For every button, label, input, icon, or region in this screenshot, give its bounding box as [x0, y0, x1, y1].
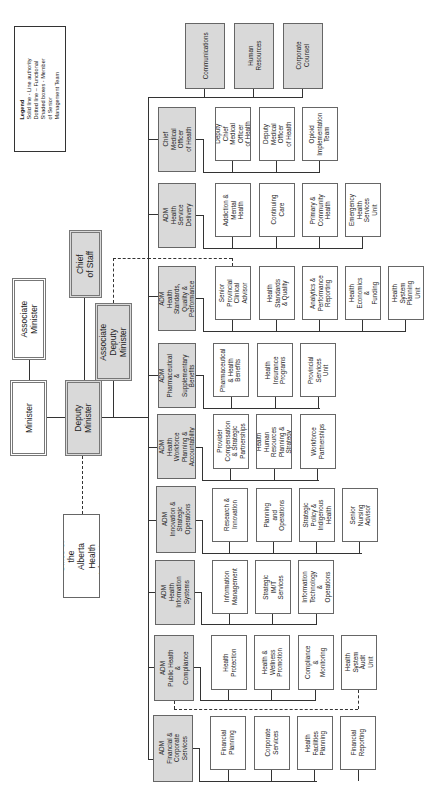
division-head-financial-corporate[interactable]: ADM Financial & Corporate Services: [153, 715, 193, 782]
unit-opioid-team[interactable]: Opioid Implementation Team: [302, 107, 338, 161]
division-head-health-service-delivery[interactable]: ADM Health Service Delivery: [158, 183, 196, 248]
chief-of-staff-box[interactable]: Chief of Staff: [69, 230, 102, 298]
unit-connector: [228, 690, 229, 700]
unit-compliance-monitoring[interactable]: Compliance & Monitoring: [298, 635, 334, 690]
division-head-health-standards[interactable]: ADM Health Standards, Quality & Performa…: [158, 266, 196, 331]
division-head-health-workforce[interactable]: ADM Health Workforce Planning & Accounta…: [157, 414, 196, 479]
unit-addiction-mental-health[interactable]: Addiction & Mental Health: [215, 183, 251, 237]
unit-connector: [276, 237, 277, 248]
unit-deputy-chief-moh[interactable]: Deputy Chief Medical Officer of Health: [215, 107, 251, 161]
unit-connector: [315, 690, 316, 700]
communications-box[interactable]: Communications: [185, 23, 225, 89]
corporate-counsel-box[interactable]: Corporate Counsel: [283, 23, 323, 89]
unit-label: Health System Audit Unit: [344, 646, 374, 680]
division-head-chief-medical-officer[interactable]: Chief Medical Officer of Health: [158, 107, 196, 172]
div6-drop: [201, 592, 202, 624]
unit-connector: [232, 161, 233, 172]
unit-label: Planning and Operations: [263, 498, 286, 532]
unit-health-protection[interactable]: Health Protection: [211, 635, 247, 690]
division-head-health-information-systems[interactable]: ADM Health Information Systems: [155, 560, 195, 625]
dashed-audit-drop: [358, 690, 359, 709]
unit-connector: [276, 161, 277, 172]
connector-div1: [148, 214, 158, 215]
health-advocates-box[interactable]: Office of the Alberta Health Advocates: [63, 514, 100, 598]
human-resources-box[interactable]: Human Resources: [234, 23, 274, 89]
div4-drop: [202, 447, 203, 480]
unit-information-technology-operations[interactable]: Information Technology & Operations: [298, 560, 334, 614]
backbone-line: [148, 97, 149, 759]
unit-strategic-imt-services[interactable]: Strategic IM/T Services: [255, 560, 291, 614]
unit-label: Research & Innovation: [222, 499, 237, 532]
unit-provincial-services[interactable]: Provincial Services Unit: [300, 343, 336, 397]
div5-bar: [202, 553, 362, 554]
communications-label: Communications: [201, 33, 209, 80]
unit-analytics-performance-reporting[interactable]: Analytics & Performance Reporting: [302, 266, 338, 320]
unit-label: Provincial Services Unit: [307, 353, 330, 387]
associate-minister-box[interactable]: Associate Minister: [12, 278, 46, 360]
unit-label: Pharmaceutical & Health Benefits: [220, 348, 243, 391]
division-head-label: ADM Innovation & Strategic Operations: [161, 501, 191, 539]
division-head-public-health[interactable]: ADM Public Health & Compliance: [154, 635, 194, 701]
unit-information-management[interactable]: Information Management: [212, 560, 248, 614]
unit-health-wellness-promotion[interactable]: Health & Wellness Promotion: [254, 635, 290, 690]
unit-planning-operations[interactable]: Planning and Operations: [256, 488, 292, 542]
unit-health-system-planning[interactable]: Health System Planning Unit: [388, 266, 424, 320]
unit-label: Deputy Medical Officer of Health: [262, 117, 292, 151]
div6-bar: [201, 624, 317, 625]
unit-continuing-care[interactable]: Continuing Care: [259, 183, 295, 237]
unit-pharmaceutical-health-benefits[interactable]: Pharmaceutical & Health Benefits: [213, 343, 249, 397]
associate-deputy-minister-box[interactable]: Associate Deputy Minister: [95, 303, 132, 381]
unit-financial-reporting[interactable]: Financial Reporting: [340, 716, 376, 770]
unit-label: Strategic Policy & Indigenous Health: [302, 500, 332, 531]
unit-health-facilities-planning[interactable]: Health Facilities Planning: [297, 716, 333, 770]
unit-health-standards-quality[interactable]: Health Standards & Quality: [259, 266, 295, 320]
division-head-innovation[interactable]: ADM Innovation & Strategic Operations: [156, 486, 196, 553]
unit-health-economics-funding[interactable]: Health Economics & Funding: [345, 266, 381, 320]
unit-senior-nursing-advisor[interactable]: Senior Nursing Advisor: [342, 488, 378, 542]
unit-corporate-services[interactable]: Corporate Services: [254, 716, 290, 770]
connector-minister-deputy: [47, 417, 65, 418]
unit-label: Analytics & Performance Reporting: [309, 275, 332, 311]
unit-label: Senior Nursing Advisor: [349, 504, 372, 526]
unit-workforce-partnerships[interactable]: Workforce Partnerships: [300, 414, 336, 469]
unit-health-human-resources[interactable]: Health Human Resources Planning & Strate…: [256, 414, 292, 469]
unit-deputy-moh[interactable]: Deputy Medical Officer of Health: [259, 107, 295, 161]
unit-connector: [359, 542, 360, 553]
unit-provider-compensation[interactable]: Provider Compensation & Strategic Partne…: [213, 414, 249, 469]
div0-drop: [203, 139, 204, 172]
unit-connector: [316, 614, 317, 624]
connector-div3: [148, 375, 158, 376]
unit-health-system-audit[interactable]: Health System Audit Unit: [341, 635, 377, 690]
associate-deputy-minister-label: Associate Deputy Minister: [98, 324, 129, 361]
unit-emergency-health-services[interactable]: Emergency Health Services Unit: [345, 183, 381, 237]
unit-label: Financial Planning: [220, 730, 235, 755]
unit-health-insurance-programs[interactable]: Health Insurance Programs: [257, 343, 293, 397]
division-head-label: ADM Pharmaceutical & Supplementary Benef…: [158, 354, 196, 397]
unit-primary-community-health[interactable]: Primary & Community Health: [302, 183, 338, 237]
legend-shaded-boxes: Shaded boxes - Member of Senior Manageme…: [40, 58, 61, 119]
health-advocates-label: Office of the Alberta Health Advocates: [63, 536, 100, 576]
unit-connector: [273, 542, 274, 553]
unit-connector: [318, 397, 319, 408]
unit-label: Senior Provincial Clinical Advisor: [218, 279, 248, 306]
unit-connector: [232, 237, 233, 248]
minister-box[interactable]: Minister: [10, 380, 47, 456]
division-head-label: ADM Health Service Delivery: [162, 198, 192, 234]
minister-label: Minister: [23, 403, 33, 433]
unit-label: Health Facilities Planning: [304, 726, 327, 760]
dashed-deputy-health-advocates: [82, 456, 83, 514]
div7-drop: [200, 667, 201, 700]
division-head-pharmaceutical[interactable]: ADM Pharmaceutical & Supplementary Benef…: [158, 343, 196, 408]
unit-strategic-policy-indigenous[interactable]: Strategic Policy & Indigenous Health: [299, 488, 335, 542]
unit-financial-planning[interactable]: Financial Planning: [210, 716, 246, 770]
division-head-label: ADM Health Information Systems: [160, 574, 190, 612]
div3-drop: [203, 375, 204, 408]
unit-connector: [358, 770, 359, 781]
division-head-label: ADM Financial & Corporate Services: [158, 730, 188, 768]
deputy-minister-box[interactable]: Deputy Minister: [65, 380, 102, 456]
div4-bar: [202, 480, 319, 481]
unit-label: Health & Wellness Promotion: [261, 648, 284, 677]
unit-research-innovation[interactable]: Research & Innovation: [212, 488, 248, 542]
connector-div2: [148, 296, 158, 297]
unit-senior-provincial-clinical-advisor[interactable]: Senior Provincial Clinical Advisor: [215, 266, 251, 320]
